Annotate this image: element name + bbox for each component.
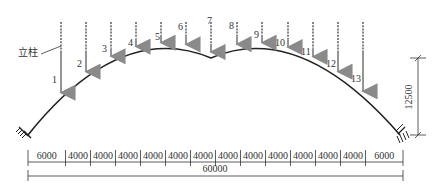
column-10: 10 — [275, 22, 288, 48]
column-5: 5 — [155, 22, 161, 43]
segment-label: 4000 — [143, 150, 163, 161]
rise-dimension: 12500 — [403, 55, 426, 138]
arch-diagram: 12345678910111213 立柱 12500 6000400040004… — [0, 0, 440, 196]
column-number: 8 — [229, 20, 234, 31]
segment-label: 4000 — [168, 150, 188, 161]
total-span-dimension: 60000 — [28, 163, 403, 181]
column-number: 13 — [351, 73, 361, 84]
column-number: 5 — [155, 31, 160, 42]
arch-curve — [28, 49, 400, 135]
column-9: 9 — [254, 22, 262, 43]
column-number: 12 — [326, 58, 336, 69]
column-6: 6 — [178, 21, 186, 44]
total-span-label: 60000 — [203, 163, 228, 174]
segment-label: 4000 — [193, 150, 213, 161]
column-1: 1 — [52, 22, 61, 93]
columns-group: 12345678910111213 — [52, 15, 363, 93]
segment-label: 4000 — [68, 150, 88, 161]
segment-label: 6000 — [374, 150, 394, 161]
column-number: 2 — [77, 58, 82, 69]
column-3: 3 — [102, 22, 111, 56]
column-8: 8 — [229, 20, 237, 44]
segment-label: 4000 — [293, 150, 313, 161]
right-fixed-support-icon — [396, 124, 409, 143]
segment-label: 4000 — [243, 150, 263, 161]
column-number: 1 — [52, 74, 57, 85]
segment-label: 4000 — [218, 150, 238, 161]
column-12: 12 — [326, 22, 338, 72]
column-11: 11 — [301, 22, 313, 57]
segment-label: 4000 — [318, 150, 338, 161]
column-4: 4 — [128, 22, 136, 48]
column-number: 6 — [178, 21, 183, 32]
column-7: 7 — [207, 15, 212, 52]
segment-label: 4000 — [268, 150, 288, 161]
segment-label: 4000 — [343, 150, 363, 161]
column-13: 13 — [351, 22, 363, 91]
segment-label: 4000 — [118, 150, 138, 161]
column-number: 10 — [275, 37, 285, 48]
column-number: 4 — [128, 37, 133, 48]
column-number: 9 — [254, 29, 259, 40]
rise-label: 12500 — [403, 85, 414, 110]
segment-label: 6000 — [37, 150, 57, 161]
segment-label: 4000 — [93, 150, 113, 161]
column-label-leader — [41, 46, 61, 54]
column-number: 11 — [301, 46, 311, 57]
column-2: 2 — [77, 22, 86, 72]
column-number: 3 — [102, 43, 107, 54]
left-fixed-support-icon — [16, 127, 31, 138]
column-number: 7 — [207, 15, 212, 26]
column-label: 立柱 — [18, 46, 38, 58]
